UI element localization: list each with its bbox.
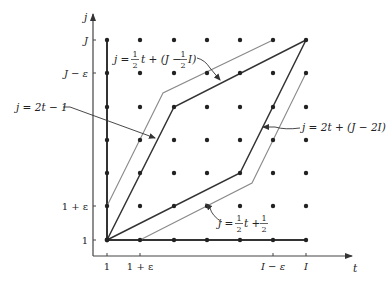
svg-text:2: 2	[261, 225, 266, 234]
y-tick-1: 1	[82, 235, 88, 246]
x-tick-I: I	[303, 261, 309, 272]
label-upper-line: j = 1 2 t + (J − 1 2 I)	[112, 50, 196, 70]
svg-text:t +: t +	[244, 217, 260, 229]
lower-light-path	[140, 73, 306, 240]
label-steep-left: j = 2t − 1	[14, 101, 68, 113]
svg-text:1: 1	[132, 50, 137, 59]
svg-text:1: 1	[180, 50, 185, 59]
annotation-leaders	[63, 58, 300, 222]
svg-text:2: 2	[236, 225, 241, 234]
y-tick-1-plus-eps: 1 + ε	[62, 201, 88, 212]
y-axis-label: j	[82, 11, 88, 23]
svg-text:j =: j =	[216, 217, 233, 229]
x-tick-1-plus-eps: 1 + ε	[127, 261, 153, 272]
x-tick-1: 1	[104, 261, 110, 272]
svg-text:j =: j =	[112, 53, 129, 65]
svg-text:1: 1	[261, 214, 266, 223]
svg-text:I): I)	[187, 53, 196, 65]
label-lower-line: j = 1 2 t + 1 2	[216, 214, 268, 234]
x-tick-I-minus-eps: I − ε	[260, 261, 285, 272]
y-tick-J-minus-eps: J − ε	[62, 68, 88, 79]
svg-text:2: 2	[180, 61, 185, 70]
label-steep-right: j = 2t + (J − 2I)	[300, 121, 386, 133]
x-axis-label: t	[353, 262, 358, 274]
y-tick-J: J	[82, 35, 89, 46]
svg-text:1: 1	[236, 214, 241, 223]
svg-text:2: 2	[132, 61, 137, 70]
lattice-diagram: j t J J − ε 1 + ε 1 1 1 + ε I − ε I j =	[0, 0, 389, 287]
svg-text:t + (J −: t + (J −	[141, 53, 181, 65]
